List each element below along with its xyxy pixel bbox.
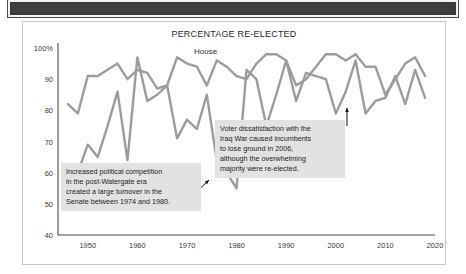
- annotation-line: Voter dissatisfaction with the: [220, 124, 340, 134]
- annotation-line: Increased political competition: [66, 167, 196, 177]
- header-band-inner: [12, 4, 454, 13]
- annotation-line: although the overwhelming: [220, 154, 340, 164]
- series-label-house: House: [194, 47, 217, 56]
- y-tick-label: 90: [45, 75, 53, 84]
- annotation-line: majority were re-elected.: [220, 164, 340, 174]
- y-tick-label: 70: [45, 138, 53, 147]
- annotation-line: to lose ground in 2006,: [220, 144, 340, 154]
- y-tick-label: 100%: [34, 44, 54, 53]
- x-tick-label: 1950: [79, 241, 96, 250]
- y-tick-label: 80: [45, 106, 53, 115]
- annotation-line: Iraq War caused incumbents: [220, 134, 340, 144]
- x-tick-label: 2000: [327, 241, 344, 250]
- chart-figure: PERCENTAGE RE-ELECTED 405060708090100%19…: [22, 21, 446, 265]
- header-band: [8, 0, 458, 17]
- x-tick-label: 2010: [377, 241, 394, 250]
- x-tick-label: 2020: [427, 241, 444, 250]
- x-tick-label: 1990: [278, 241, 295, 250]
- y-tick-label: 50: [45, 200, 53, 209]
- watergate-annotation: Increased political competitionin the po…: [61, 163, 201, 211]
- iraq-war-annotation: Voter dissatisfaction with theIraq War c…: [215, 120, 345, 178]
- annotation-line: created a large turnover in the: [66, 187, 196, 197]
- iraq-leader-arrow: [345, 108, 349, 126]
- x-tick-label: 1960: [129, 241, 146, 250]
- y-tick-label: 40: [45, 231, 53, 240]
- x-tick-label: 1970: [179, 241, 196, 250]
- screenshot-root: PERCENTAGE RE-ELECTED 405060708090100%19…: [0, 0, 466, 274]
- annotation-line: in the post-Watergate era: [66, 177, 196, 187]
- x-tick-label: 1980: [228, 241, 245, 250]
- y-tick-label: 60: [45, 169, 53, 178]
- annotation-line: Senate between 1974 and 1980.: [66, 197, 196, 207]
